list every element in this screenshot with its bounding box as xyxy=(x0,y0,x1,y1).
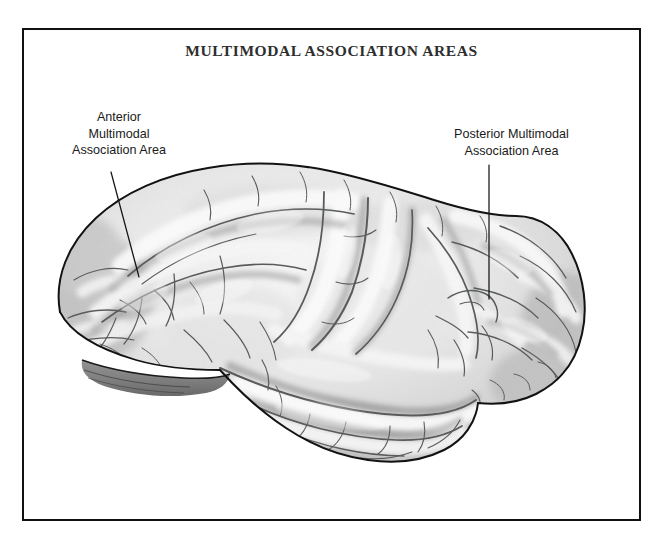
label-anterior-multimodal-association-area: Anterior Multimodal Association Area xyxy=(54,109,184,159)
figure-frame-border: MULTIMODAL ASSOCIATION AREAS xyxy=(22,28,641,521)
figure-page: MULTIMODAL ASSOCIATION AREAS xyxy=(0,0,665,541)
brain-illustration xyxy=(24,30,639,519)
sulci-lines xyxy=(68,172,576,460)
page-title: MULTIMODAL ASSOCIATION AREAS xyxy=(24,42,639,60)
leader-line-anterior xyxy=(111,172,139,277)
orbital-surface xyxy=(82,360,230,396)
label-posterior-multimodal-association-area: Posterior Multimodal Association Area xyxy=(424,126,599,159)
cerebrum-body xyxy=(24,30,639,519)
